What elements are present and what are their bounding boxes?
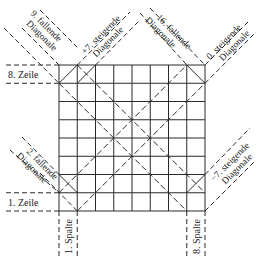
- column-label-8: 8. Spalte: [191, 218, 202, 254]
- row-label-1: 1. Zeile: [8, 197, 39, 208]
- label-0-rising-diagonal: 0. steigende Diagonale: [204, 21, 251, 68]
- label-16-falling-diagonal: 16. fallende Diagonale: [143, 8, 193, 58]
- row-label-8: 8. Zeile: [8, 69, 39, 80]
- label-9-falling-diagonal: 9. fallende Diagonale: [22, 8, 67, 53]
- row-bands: [6, 65, 59, 211]
- column-bands: [59, 211, 205, 256]
- board-grid: [59, 65, 205, 211]
- label-2-falling-diagonal: 2. fallende Diagonale: [15, 144, 60, 189]
- column-label-1: 1. Spalte: [63, 218, 74, 254]
- chessboard-diagonal-diagram: 8. Zeile 1. Zeile 1. Spalte 8. Spalte 9.…: [0, 0, 261, 266]
